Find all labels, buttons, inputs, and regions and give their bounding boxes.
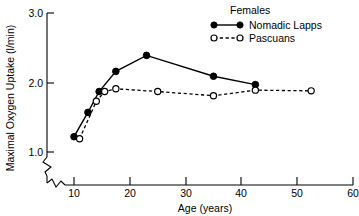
data-point [113,86,119,92]
legend-entry-nomadic-lapps: Nomadic Lapps [211,19,322,31]
data-point [210,93,216,99]
legend-marker-open-circle-left [211,35,217,41]
x-tick-label-30: 30 [180,187,192,199]
x-tick-label-20: 20 [124,187,136,199]
legend-entry-pascuans: Pascuans [211,32,295,44]
y-tick-label-3: 3.0 [28,7,43,19]
data-point [102,88,108,94]
legend: Females Nomadic Lapps Pascuans [211,4,322,44]
data-point [143,52,150,59]
y-tick-label-1: 1.0 [28,146,43,158]
x-tick-label-50: 50 [291,187,303,199]
series-pascuans [76,86,314,142]
x-tick-label-10: 10 [68,187,80,199]
legend-title: Females [230,4,270,16]
x-axis-title: Age (years) [178,202,232,214]
x-axis-break-icon [47,179,65,187]
data-point [93,98,99,104]
chart-figure: 3.0 2.0 1.0 Maximal Oxygen Uptake (l/min… [0,0,359,216]
data-point [113,68,120,75]
data-point [252,87,258,93]
series-nomadic-lapps [71,52,259,140]
y-tick-label-2: 2.0 [28,77,43,89]
x-tick-label-40: 40 [235,187,247,199]
y-axis [43,13,54,183]
data-point [76,136,82,142]
legend-label-pascuans: Pascuans [249,32,295,44]
data-point [155,88,161,94]
y-axis-title: Maximal Oxygen Uptake (l/min) [4,25,16,171]
data-point [210,73,217,80]
data-point [308,88,314,94]
x-tick-label-60: 60 [347,187,359,199]
x-axis [47,177,353,187]
y-axis-break-icon [43,157,51,176]
legend-marker-filled-circle-right [237,22,243,28]
legend-marker-filled-circle-left [211,22,217,28]
data-series-layer [71,52,315,142]
chart-plot-area: 3.0 2.0 1.0 Maximal Oxygen Uptake (l/min… [0,0,359,216]
legend-label-nomadic-lapps: Nomadic Lapps [249,19,322,31]
legend-marker-open-circle-right [237,35,243,41]
series-line-dashed [80,89,312,139]
